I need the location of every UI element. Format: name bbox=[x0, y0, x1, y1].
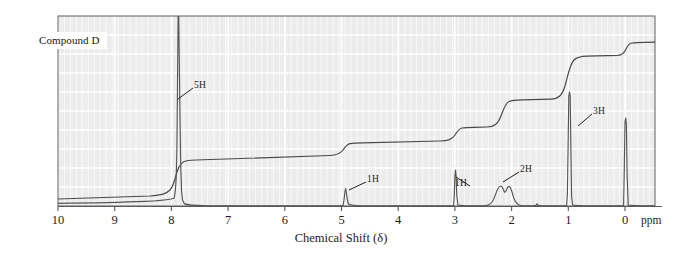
xtick-label-8: 8 bbox=[168, 214, 174, 227]
annotation-1h-methine: 1H bbox=[455, 179, 467, 189]
compound-label: Compound D bbox=[32, 32, 107, 49]
xtick-label-5: 5 bbox=[338, 214, 344, 227]
xtick-label-0: 0 bbox=[622, 214, 628, 227]
xtick-label-6: 6 bbox=[282, 214, 288, 227]
annotation-1h-aldehyde: 1H bbox=[367, 175, 379, 185]
xtick-label-9: 9 bbox=[112, 214, 118, 227]
annotation-2h: 2H bbox=[520, 165, 532, 175]
nmr-spectrum-figure: Compound D 5H 1H 1H 2H 3H 10 9 8 7 6 5 4… bbox=[0, 0, 680, 257]
annotation-3h: 3H bbox=[593, 107, 605, 117]
annotation-5h: 5H bbox=[194, 81, 206, 91]
xtick-label-4: 4 bbox=[395, 214, 401, 227]
xtick-label-1: 1 bbox=[565, 214, 571, 227]
ppm-unit-label: ppm bbox=[641, 215, 661, 227]
xtick-label-2: 2 bbox=[508, 214, 514, 227]
xtick-label-7: 7 bbox=[225, 214, 231, 227]
xtick-label-3: 3 bbox=[452, 214, 458, 227]
xtick-label-10: 10 bbox=[52, 214, 65, 227]
x-axis-title: Chemical Shift (δ) bbox=[295, 232, 388, 245]
x-axis bbox=[58, 207, 662, 212]
